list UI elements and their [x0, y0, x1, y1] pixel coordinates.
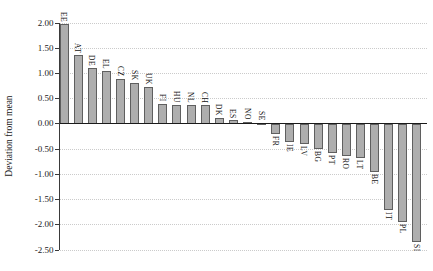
bar-label-uk: UK [144, 73, 153, 85]
y-tick-label: 1.00 [14, 69, 54, 78]
gridline [60, 250, 427, 251]
bar-lv [300, 124, 309, 144]
bar-sk [130, 83, 139, 124]
bar-label-de: DE [87, 55, 96, 66]
bar-ch [201, 105, 210, 124]
y-tick-label: 2.00 [14, 19, 54, 28]
bar-ee [60, 24, 69, 124]
bar-si [412, 124, 421, 243]
bar-label-ie: IE [285, 144, 294, 152]
gridline [60, 98, 427, 99]
bar-de [88, 68, 97, 124]
bar-cz [116, 79, 125, 124]
bar-el [102, 71, 111, 124]
y-tick-label: 0.50 [14, 94, 54, 103]
bar-pt [328, 124, 337, 153]
bar-label-se: SE [257, 111, 266, 121]
bar-label-pt: PT [327, 155, 336, 165]
y-tick [55, 149, 59, 150]
gridline [60, 48, 427, 49]
bar-label-bg: BG [313, 151, 322, 162]
bar-chart: Deviation from mean 2.001.501.000.500.00… [0, 0, 433, 271]
y-tick [55, 48, 59, 49]
bar-label-fi: FI [158, 94, 167, 102]
bar-nl [187, 105, 196, 124]
y-tick [55, 123, 59, 124]
gridline [60, 199, 427, 200]
y-tick [55, 250, 59, 251]
bar-label-nl: NL [186, 92, 195, 103]
y-tick [55, 73, 59, 74]
y-tick [55, 23, 59, 24]
bar-label-lt: LT [355, 160, 364, 169]
bar-hu [172, 105, 181, 124]
y-tick-label: 0.00 [14, 119, 54, 128]
gridline [60, 23, 427, 24]
bar-label-ch: CH [200, 92, 209, 103]
bar-label-be: BE [370, 174, 379, 185]
bar-ro [342, 124, 351, 156]
bar-label-el: EL [101, 59, 110, 69]
bar-fr [271, 124, 280, 135]
bar-label-cz: CZ [116, 66, 125, 77]
bar-be [370, 124, 379, 172]
bar-label-fr: FR [271, 136, 280, 146]
bar-label-es: ES [228, 109, 237, 119]
bar-label-at: AT [73, 43, 82, 53]
bar-label-dk: DK [214, 104, 223, 116]
y-tick-label: -2.50 [14, 246, 54, 255]
bar-at [74, 55, 83, 124]
bar-ie [285, 124, 294, 142]
y-tick [55, 174, 59, 175]
bar-label-pl: PL [398, 224, 407, 234]
bar-lt [356, 124, 365, 158]
y-tick-label: -1.50 [14, 195, 54, 204]
bar-label-lv: LV [299, 146, 308, 156]
bar-label-no: NO [243, 108, 252, 120]
bar-it [384, 124, 393, 210]
y-tick-label: -0.50 [14, 145, 54, 154]
plot-area: 2.001.501.000.500.00-0.50-1.00-1.50-2.00… [60, 23, 427, 250]
bar-label-sk: SK [130, 70, 139, 81]
y-tick [55, 224, 59, 225]
bar-uk [144, 87, 153, 124]
bar-pl [398, 124, 407, 222]
gridline [60, 224, 427, 225]
bar-fi [158, 104, 167, 124]
bar-label-si: SI [412, 244, 421, 252]
y-tick-label: 1.50 [14, 44, 54, 53]
bar-label-hu: HU [172, 91, 181, 103]
zero-line [60, 123, 427, 124]
bar-label-ee: EE [59, 12, 68, 22]
y-tick [55, 98, 59, 99]
y-tick [55, 199, 59, 200]
bar-label-it: IT [384, 212, 393, 220]
y-tick-label: -1.00 [14, 170, 54, 179]
bar-label-ro: RO [341, 158, 350, 169]
y-tick-label: -2.00 [14, 220, 54, 229]
bar-bg [314, 124, 323, 149]
